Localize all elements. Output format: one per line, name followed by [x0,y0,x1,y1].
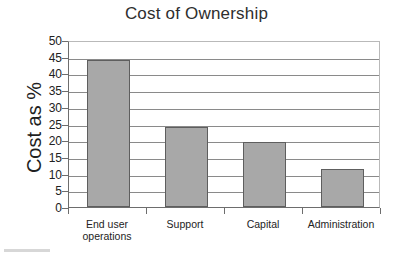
bar[interactable] [165,127,208,207]
bar[interactable] [321,169,364,207]
y-tick-label: 50 [36,35,62,47]
x-category-label: Capital [224,218,302,230]
x-category-label: Administration [302,218,380,230]
x-category-label-line: Capital [247,218,280,230]
x-category-label-line: Administration [308,218,375,230]
x-category-label-line: Support [167,218,204,230]
plot-area [68,41,380,208]
x-category-label: End useroperations [68,218,146,242]
y-tick-label: 5 [36,185,62,197]
x-tick-mark [224,208,225,214]
x-tick-mark [146,208,147,214]
x-category-label-line: End user [86,218,128,230]
bar[interactable] [87,60,130,207]
y-tick-label: 45 [36,52,62,64]
x-tick-mark [380,208,381,214]
bar-chart: Cost of Ownership Cost as % 504540353025… [0,0,393,257]
x-category-label-line: operations [68,230,146,242]
x-tick-mark [302,208,303,214]
y-tick-label: 40 [36,68,62,80]
bar[interactable] [243,142,286,207]
y-tick-label: 20 [36,135,62,147]
y-tick-label: 10 [36,169,62,181]
y-tick-label: 35 [36,85,62,97]
y-tick-label: 0 [36,202,62,214]
y-tick-label: 15 [36,152,62,164]
x-tick-mark [68,208,69,214]
x-category-label: Support [146,218,224,230]
y-tick-label: 30 [36,102,62,114]
y-tick-label: 25 [36,119,62,131]
chart-title: Cost of Ownership [0,4,393,24]
scan-artifact [4,249,50,252]
